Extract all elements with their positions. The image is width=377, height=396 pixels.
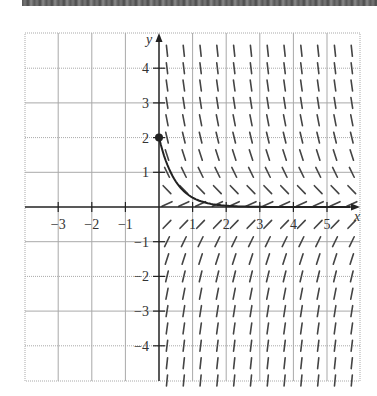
y-tick-label: −1: [134, 235, 149, 250]
x-tick-label: −3: [51, 217, 66, 232]
y-tick-label: −4: [134, 339, 149, 354]
x-tick-label: 4: [290, 217, 297, 232]
y-tick-label: −2: [134, 269, 149, 284]
initial-point: [155, 134, 163, 142]
x-tick-label: −1: [118, 217, 133, 232]
x-tick-label: 3: [256, 217, 263, 232]
y-axis-label: y: [144, 32, 153, 47]
slope-field-plot: −3−2−1123454321−1−2−3−4 x y: [0, 0, 377, 396]
y-tick-label: −3: [134, 304, 149, 319]
x-tick-label: 2: [223, 217, 230, 232]
y-axis-arrow-icon: [156, 33, 163, 42]
x-tick-label: −2: [84, 217, 99, 232]
x-tick-label: 1: [189, 217, 196, 232]
x-axis-label: x: [353, 209, 361, 224]
y-tick-label: 3: [142, 96, 149, 111]
y-tick-label: 1: [142, 165, 149, 180]
y-tick-label: 2: [142, 131, 149, 146]
y-tick-label: 4: [142, 61, 149, 76]
x-tick-label: 5: [324, 217, 331, 232]
